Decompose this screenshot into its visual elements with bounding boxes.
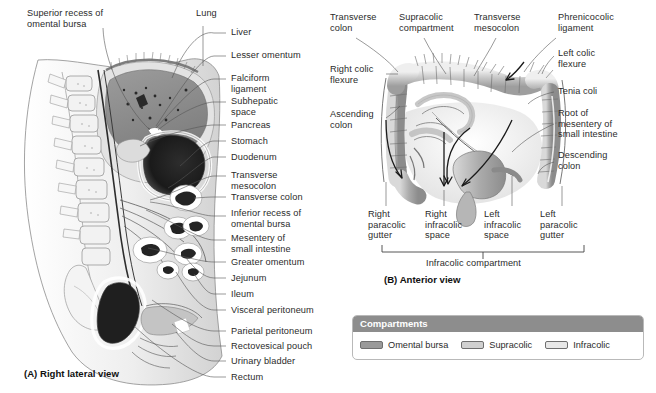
label-mesentery-of-small-intestine: Mesentery of small intestine — [231, 233, 291, 254]
legend-item-omental-bursa: Omental bursa — [360, 340, 448, 350]
legend-label-infracolic: Infracolic — [573, 340, 610, 350]
swatch-omental-bursa-icon — [360, 341, 383, 349]
label-parietal-peritoneum: Parietal peritoneum — [231, 326, 312, 337]
legend-label-supracolic: Supracolic — [489, 340, 532, 350]
label-tenia-coli: Tenia coli — [558, 86, 597, 97]
label-ascending-colon: Ascending colon — [330, 109, 374, 130]
label-left-paracolic-gutter: Left paracolic gutter — [540, 209, 578, 241]
label-left-colic-flexure: Left colic flexure — [558, 48, 595, 69]
label-lung: Lung — [196, 8, 217, 19]
legend-label-omental-bursa: Omental bursa — [388, 340, 448, 350]
label-duodenum: Duodenum — [231, 152, 277, 163]
panel-a-leader-lines — [103, 26, 226, 377]
label-pancreas: Pancreas — [231, 120, 271, 131]
label-falciform-ligament: Falciform ligament — [231, 73, 270, 94]
swatch-infracolic-icon — [545, 341, 568, 349]
label-phrenicocolic-ligament: Phrenicocolic ligament — [558, 12, 614, 33]
figure-canvas: Superior recess of omental bursa Lung Li… — [0, 0, 656, 393]
label-transverse-colon: Transverse colon — [231, 192, 303, 203]
legend-title: Compartments — [353, 316, 643, 332]
label-greater-omentum: Greater omentum — [231, 257, 304, 268]
label-liver: Liver — [231, 27, 251, 38]
label-subhepatic-space: Subhepatic space — [231, 96, 278, 117]
legend-item-supracolic: Supracolic — [461, 340, 532, 350]
panel-b-drawing — [381, 53, 565, 227]
label-transverse-colon-b: Transverse colon — [330, 12, 377, 33]
legend-item-infracolic: Infracolic — [545, 340, 610, 350]
label-lesser-omentum: Lesser omentum — [231, 50, 301, 61]
label-inferior-recess-of-omental-bursa: Inferior recess of omental bursa — [231, 208, 301, 229]
swatch-supracolic-icon — [461, 341, 484, 349]
label-left-infracolic-space: Left infracolic space — [484, 209, 521, 241]
label-descending-colon: Descending colon — [558, 150, 607, 171]
label-rectum: Rectum — [231, 372, 263, 383]
panel-b-leader-lines — [356, 38, 562, 206]
label-superior-recess-of-omental-bursa: Superior recess of omental bursa — [27, 8, 103, 29]
panel-b-caption: (B) Anterior view — [384, 274, 460, 285]
label-rectovesical-pouch: Rectovesical pouch — [231, 341, 312, 352]
label-jejunum: Jejunum — [231, 273, 266, 284]
label-urinary-bladder: Urinary bladder — [231, 356, 295, 367]
label-infracolic-compartment: Infracolic compartment — [426, 258, 521, 269]
label-right-colic-flexure: Right colic flexure — [330, 64, 373, 85]
legend-item-list: Omental bursa Supracolic Infracolic — [353, 332, 643, 358]
panel-a-caption: (A) Right lateral view — [24, 368, 119, 379]
label-supracolic-compartment: Supracolic compartment — [399, 12, 454, 33]
panel-a-drawing — [24, 52, 222, 385]
label-transverse-mesocolon: Transverse mesocolon — [231, 170, 278, 191]
compartments-legend: Compartments Omental bursa Supracolic In… — [352, 315, 644, 360]
vertebral-column — [48, 72, 110, 326]
infracolic-bracket — [382, 245, 584, 259]
label-right-paracolic-gutter: Right paracolic gutter — [368, 209, 418, 241]
label-visceral-peritoneum: Visceral peritoneum — [231, 305, 314, 316]
label-transverse-mesocolon-b: Transverse mesocolon — [474, 12, 521, 33]
label-stomach: Stomach — [231, 136, 268, 147]
label-right-infracolic-space: Right infracolic space — [425, 209, 462, 241]
label-ileum: Ileum — [231, 289, 254, 300]
label-root-of-mesentery-of-small-intestine: Root of mesentery of small intestine — [558, 108, 618, 140]
